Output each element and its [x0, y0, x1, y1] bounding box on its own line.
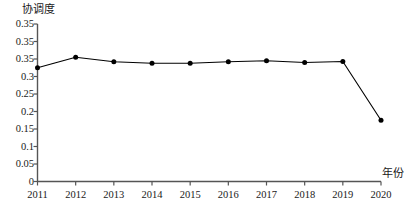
x-axis-tick-label: 2014 [142, 190, 163, 201]
x-axis-tick-label: 2018 [294, 190, 315, 201]
data-point-2020 [379, 118, 384, 123]
x-axis-tick-label: 2015 [180, 190, 201, 201]
x-axis-tick-label: 2019 [332, 190, 353, 201]
data-point-2019 [340, 59, 345, 64]
data-point-2018 [302, 60, 307, 65]
data-point-markers [35, 55, 384, 123]
data-point-2012 [73, 55, 78, 60]
axis-lines [37, 24, 381, 182]
data-line-series [38, 57, 382, 120]
data-point-2014 [150, 61, 155, 66]
x-axis-tick-label: 2020 [371, 190, 392, 201]
data-point-2017 [264, 58, 269, 63]
x-axis-tick-label: 2017 [256, 190, 277, 201]
data-point-2015 [188, 61, 193, 66]
x-axis-tick-label: 2016 [218, 190, 239, 201]
data-point-2011 [35, 65, 40, 70]
line-chart: 协调度 年份 0.350.350.350.30.250.20.150.10.05… [0, 0, 413, 208]
x-axis-tick-label: 2013 [103, 190, 124, 201]
plot-area [0, 0, 413, 208]
x-axis-tick-label: 2012 [65, 190, 86, 201]
x-axis-tick-label: 2011 [27, 190, 48, 201]
data-point-2016 [226, 59, 231, 64]
data-point-2013 [111, 59, 116, 64]
